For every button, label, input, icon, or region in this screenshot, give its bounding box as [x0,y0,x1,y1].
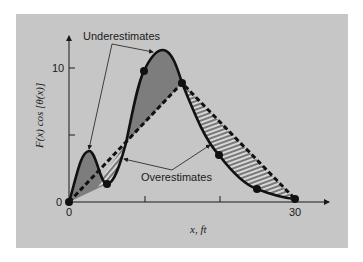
underestimates-label: Underestimates [83,30,161,42]
data-point [103,180,111,188]
data-point [65,198,73,206]
y-axis-label: F(x) cos [θ(x)] [33,83,46,149]
overestimates-label: Overestimates [141,171,212,183]
underestimates-leader-a [89,44,112,149]
x-tick-label-30: 30 [289,206,301,218]
y-tick-label-0: 0 [56,196,62,208]
data-point [215,151,223,159]
x-tick-label-0: 0 [66,206,72,218]
x-axis-label: x, ft [189,223,207,235]
y-tick-label-10: 10 [52,62,64,74]
underestimate-region-2 [126,50,182,143]
data-point [178,79,186,87]
data-point [291,195,299,203]
overestimates-leader-b [172,145,210,170]
data-point [253,185,261,193]
underestimates-leader-b [112,44,153,52]
chart-svg: Underestimates Overestimates 10 0 0 30 x… [0,0,363,262]
overestimates-leader-a [124,159,172,170]
data-point [140,67,148,75]
